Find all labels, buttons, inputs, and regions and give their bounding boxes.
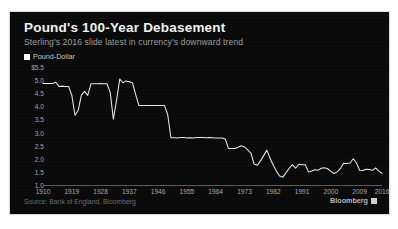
- x-axis-tick: 2000: [323, 188, 338, 195]
- x-axis-tick: 1955: [180, 188, 195, 195]
- x-axis-tick: 1973: [237, 188, 252, 195]
- plot-area: [43, 67, 382, 185]
- x-axis-tick: 1964: [208, 188, 223, 195]
- chart-legend: Pound-Dollar: [24, 52, 75, 61]
- chart-subtitle: Sterling's 2016 slide latest in currency…: [24, 37, 243, 47]
- chart-screenshot: Pound's 100-Year Debasement Sterling's 2…: [0, 0, 398, 229]
- x-axis-tick: 1991: [295, 188, 310, 195]
- series-pound-dollar: [43, 67, 382, 185]
- x-axis-tick: 2016: [375, 188, 390, 195]
- bloomberg-square-icon: [371, 198, 377, 204]
- brand-label: Bloomberg: [330, 196, 368, 205]
- chart-panel: Pound's 100-Year Debasement Sterling's 2…: [9, 11, 390, 215]
- x-axis-tick: 1919: [64, 188, 79, 195]
- source-note: Source: Bank of England, Bloomberg: [24, 198, 136, 205]
- y-axis-labels: $5.55.04.54.03.53.02.52.01.51.0: [20, 62, 44, 190]
- x-axis-tick: 1910: [36, 188, 51, 195]
- bloomberg-branding: Bloomberg: [330, 196, 377, 205]
- x-axis-line: [43, 185, 382, 186]
- legend-square-icon: [24, 54, 30, 60]
- chart-title: Pound's 100-Year Debasement: [24, 20, 225, 35]
- x-axis-tick: 1946: [151, 188, 166, 195]
- x-axis-tick: 1982: [266, 188, 281, 195]
- legend-label: Pound-Dollar: [33, 52, 75, 61]
- x-axis-tick: 1937: [122, 188, 137, 195]
- x-axis-tick: 1928: [93, 188, 108, 195]
- x-axis-tick: 2009: [352, 188, 367, 195]
